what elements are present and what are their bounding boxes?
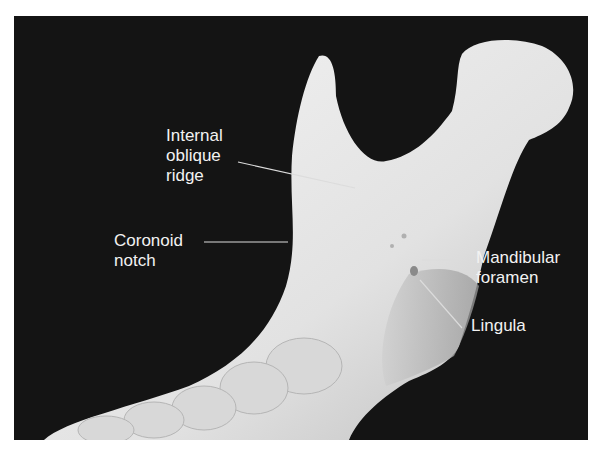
label-mandibular-foramen: Mandibular foramen [476, 248, 560, 288]
label-lingula: Lingula [471, 316, 526, 336]
label-internal-oblique-ridge: Internal oblique ridge [166, 126, 223, 186]
specimen-photo: Internal oblique ridge Coronoid notch Ma… [14, 16, 588, 440]
label-coronoid-notch: Coronoid notch [114, 231, 183, 271]
mandible-illustration [14, 16, 588, 440]
mandibular-foramen-opening [410, 266, 418, 276]
